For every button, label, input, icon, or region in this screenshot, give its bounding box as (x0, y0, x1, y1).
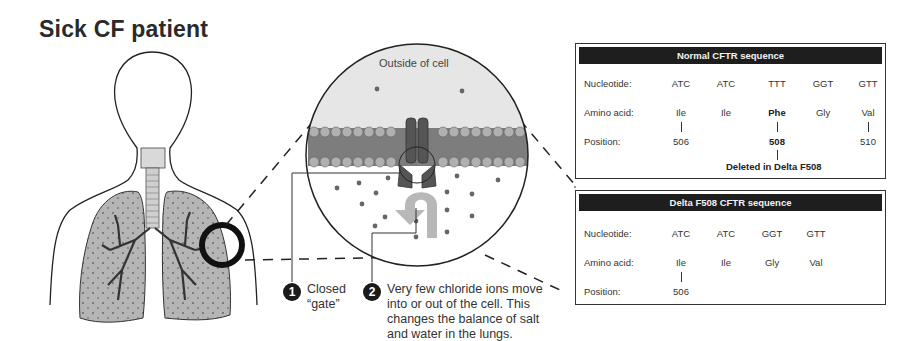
position-cell: 510 (848, 136, 888, 147)
nucleotide-cell: ATC (706, 78, 746, 89)
amino-acid-cell: Val (796, 257, 836, 268)
normal-sequence-box: Normal CFTR sequence Nucleotide: Amino a… (575, 43, 886, 179)
tick-line (681, 272, 682, 282)
nucleotide-cell: ATC (706, 228, 746, 239)
amino-acid-label: Amino acid: (584, 257, 634, 268)
amino-acid-cell: Val (848, 107, 888, 118)
tick-line (868, 122, 869, 132)
position-label: Position: (584, 136, 620, 147)
delta-sequence-header: Delta F508 CFTR sequence (579, 194, 882, 211)
callout-number-1: 1 (283, 283, 301, 301)
nucleotide-label: Nucleotide: (584, 228, 632, 239)
nucleotide-cell: TTT (757, 78, 797, 89)
callout-1-text: Closed “gate” (307, 282, 346, 312)
tick-line (777, 150, 778, 160)
nucleotide-cell: GTT (796, 228, 836, 239)
delta-sequence-box: Delta F508 CFTR sequence Nucleotide: Ami… (575, 190, 886, 305)
outside-of-cell-label: Outside of cell (379, 57, 449, 69)
amino-acid-cell: Ile (706, 257, 746, 268)
amino-acid-cell: Ile (661, 257, 701, 268)
amino-acid-label: Amino acid: (584, 107, 634, 118)
cell-view (300, 40, 540, 275)
nucleotide-cell: GGT (803, 78, 843, 89)
tick-line (681, 122, 682, 132)
normal-sequence-header: Normal CFTR sequence (579, 47, 882, 64)
deletion-note: Deleted in Delta F508 (726, 161, 822, 172)
callout-2-text: Very few chloride ions move into or out … (387, 282, 543, 341)
amino-acid-cell: Ile (706, 107, 746, 118)
nucleotide-cell: ATC (661, 78, 701, 89)
position-cell: 506 (661, 286, 701, 297)
nucleotide-cell: ATC (661, 228, 701, 239)
nucleotide-label: Nucleotide: (584, 78, 632, 89)
position-cell-highlight: 508 (757, 136, 797, 147)
position-label: Position: (584, 286, 620, 297)
tick-line (777, 122, 778, 132)
amino-acid-cell-highlight: Phe (757, 107, 797, 118)
nucleotide-cell: GTT (848, 78, 888, 89)
nucleotide-cell: GGT (752, 228, 792, 239)
callout-number-2: 2 (363, 283, 381, 301)
position-cell: 506 (661, 136, 701, 147)
trachea (141, 148, 165, 228)
amino-acid-cell: Ile (661, 107, 701, 118)
amino-acid-cell: Gly (752, 257, 792, 268)
amino-acid-cell: Gly (803, 107, 843, 118)
